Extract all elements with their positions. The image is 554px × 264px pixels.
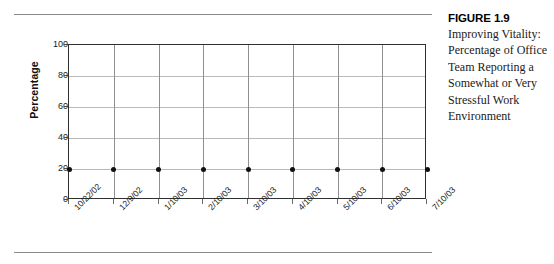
- x-tick-label: 7/10/03: [430, 205, 437, 212]
- data-point: [67, 167, 72, 172]
- data-point: [425, 167, 430, 172]
- vertical-gridline: [248, 45, 249, 198]
- vertical-gridline: [159, 45, 160, 198]
- x-tick-label: 5/10/03: [341, 205, 348, 212]
- data-point: [111, 167, 116, 172]
- data-point: [335, 167, 340, 172]
- horizontal-gridline: [69, 107, 425, 108]
- figure-caption-body: Improving Vitality: Percentage of Office…: [448, 26, 554, 124]
- x-tick-mark: [202, 199, 203, 204]
- x-tick-mark: [158, 199, 159, 204]
- x-tick-mark: [337, 199, 338, 204]
- vertical-gridline: [203, 45, 204, 198]
- vertical-gridline: [382, 45, 383, 198]
- vertical-gridline: [114, 45, 115, 198]
- horizontal-gridline: [69, 76, 425, 77]
- x-tick-mark: [381, 199, 382, 204]
- chart-figure: Percentage 020406080100 10/22/0212/9/021…: [0, 0, 436, 264]
- data-point: [156, 167, 161, 172]
- vertical-gridline: [293, 45, 294, 198]
- data-point: [201, 167, 206, 172]
- horizontal-gridline: [69, 138, 425, 139]
- x-tick-label: 4/10/03: [296, 205, 303, 212]
- x-tick-mark: [68, 199, 69, 204]
- figure-page: Percentage 020406080100 10/22/0212/9/021…: [0, 0, 554, 264]
- vertical-gridline: [338, 45, 339, 198]
- x-tick-label-text: 7/10/03: [430, 185, 457, 212]
- plot-area: [68, 44, 426, 199]
- data-point: [290, 167, 295, 172]
- x-axis-labels: 10/22/0212/9/021/10/032/10/033/10/034/10…: [68, 205, 426, 255]
- x-tick-mark: [247, 199, 248, 204]
- x-tick-mark: [426, 199, 427, 204]
- x-tick-label: 10/22/02: [72, 205, 79, 212]
- x-tick-mark: [292, 199, 293, 204]
- x-tick-label: 3/10/03: [251, 205, 258, 212]
- x-tick-label: 6/10/03: [385, 205, 392, 212]
- x-tick-label: 1/10/03: [162, 205, 169, 212]
- data-point: [380, 167, 385, 172]
- figure-caption-heading: FIGURE 1.9: [448, 12, 554, 24]
- data-point: [246, 167, 251, 172]
- x-tick-mark: [113, 199, 114, 204]
- figure-caption: FIGURE 1.9 Improving Vitality: Percentag…: [448, 12, 554, 124]
- y-axis-ticks: 020406080100: [34, 44, 68, 199]
- x-tick-label: 2/10/03: [206, 205, 213, 212]
- x-tick-label: 12/9/02: [117, 205, 124, 212]
